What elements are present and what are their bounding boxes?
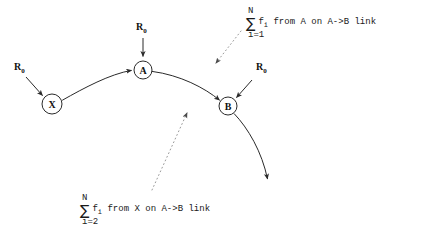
node-x-label: X bbox=[48, 99, 56, 110]
annotation-sum-from-a-expression: ∑ fi from A on A->B link bbox=[246, 16, 376, 30]
node-b-label: B bbox=[225, 101, 232, 112]
leader-sum-from-x bbox=[152, 113, 187, 190]
node-x[interactable]: X bbox=[42, 94, 62, 114]
annotation-sum-from-x-body: fi from X on A->B link bbox=[92, 204, 210, 216]
leader-sum-from-a bbox=[216, 31, 241, 63]
node-b[interactable]: B bbox=[219, 97, 237, 115]
node-a-label: A bbox=[139, 65, 147, 76]
annotation-sum-from-x-upper-limit: N bbox=[80, 193, 210, 203]
node-a[interactable]: A bbox=[134, 61, 152, 79]
sigma-icon: ∑ bbox=[80, 203, 89, 217]
edge-x-to-a bbox=[62, 70, 131, 100]
annotation-sum-from-x-expression: ∑ fi from X on A->B link bbox=[80, 203, 210, 217]
input-label-r0-a: R0 bbox=[136, 22, 147, 35]
annotation-sum-from-a-text: from A on A->B link bbox=[268, 17, 376, 27]
input-label-r0-a-subscript: 0 bbox=[143, 27, 147, 35]
edge-b-outgoing bbox=[234, 114, 268, 180]
annotation-sum-from-x: N ∑ fi from X on A->B link i=2 bbox=[80, 193, 210, 228]
input-label-r0-x-subscript: 0 bbox=[21, 67, 25, 75]
edge-r0-into-b bbox=[237, 80, 253, 98]
edge-r0-into-x bbox=[26, 77, 43, 96]
input-label-r0-b: R0 bbox=[256, 62, 267, 75]
input-label-r0-x: R0 bbox=[14, 62, 25, 75]
network-flow-diagram: X A B R0 R0 R0 N ∑ fi from A on A->B lin… bbox=[0, 0, 422, 250]
annotation-sum-from-a: N ∑ fi from A on A->B link i=1 bbox=[246, 6, 376, 41]
input-label-r0-b-subscript: 0 bbox=[263, 67, 267, 75]
edge-a-to-b bbox=[152, 71, 220, 100]
sigma-icon: ∑ bbox=[246, 16, 255, 30]
annotation-sum-from-a-lower-limit: i=1 bbox=[246, 30, 376, 40]
annotation-sum-from-x-lower-limit: i=2 bbox=[80, 217, 210, 227]
annotation-sum-from-x-text: from X on A->B link bbox=[102, 204, 210, 214]
annotation-sum-from-a-upper-limit: N bbox=[246, 6, 376, 16]
annotation-sum-from-a-body: fi from A on A->B link bbox=[258, 17, 376, 29]
